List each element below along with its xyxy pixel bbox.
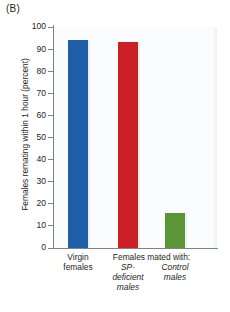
bar-shadow [88,40,90,248]
y-tick-20 [48,203,53,204]
bar-shadow [138,42,140,248]
y-tick-30 [48,181,53,182]
y-tick-label-20: 20 [6,199,46,208]
y-tick-0 [48,248,53,249]
x-axis-label-line: males [145,272,205,282]
bar-shadow [185,213,187,248]
y-tick-40 [48,159,53,160]
y-tick-80 [48,71,53,72]
y-tick-label-60: 60 [6,111,46,120]
y-tick-label-50: 50 [6,133,46,142]
y-tick-label-90: 90 [6,45,46,54]
y-tick-label-10: 10 [6,221,46,230]
y-tick-90 [48,49,53,50]
panel-label: (B) [6,3,20,14]
x-axis-label-2: Controlmales [145,262,205,282]
bar-0 [68,40,88,248]
plot-background-edge [214,27,217,248]
y-tick-label-70: 70 [6,89,46,98]
y-tick-label-100: 100 [6,22,46,31]
x-axis-label-line: males [98,282,158,292]
y-axis-line [53,25,54,249]
x-axis-group-header: Females mated with: [92,252,212,262]
y-tick-10 [48,225,53,226]
figure-panel-b: (B) Females remating within 1 hour (perc… [0,0,230,312]
y-tick-label-0: 0 [6,243,46,252]
y-tick-label-40: 40 [6,155,46,164]
x-axis-line [53,248,218,249]
y-tick-70 [48,93,53,94]
x-axis-label-line: Control [145,262,205,272]
y-tick-60 [48,115,53,116]
y-tick-100 [48,27,53,28]
bar-2 [165,213,185,248]
y-tick-label-30: 30 [6,177,46,186]
bar-1 [118,42,138,248]
y-tick-50 [48,137,53,138]
y-tick-label-80: 80 [6,67,46,76]
